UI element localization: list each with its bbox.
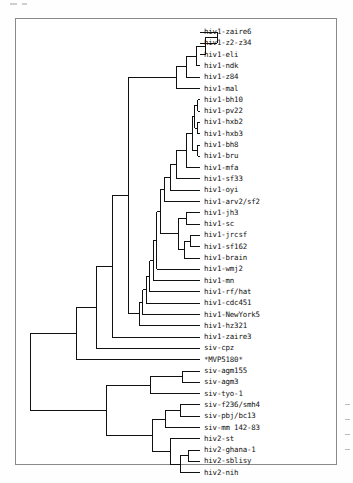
tree-tip-label: hiv1-z84: [204, 72, 239, 81]
tree-tip-label: hiv1-mfa: [204, 163, 238, 172]
tree-tip-label: siv-agm155: [204, 366, 247, 375]
phylogenetic-tree: hiv1-zaire6hiv1-z2-z34hiv1-elihiv1-ndkhi…: [0, 0, 353, 483]
tree-tip-label: hiv1-hz321: [204, 321, 247, 330]
tree-tip-label: hiv1-zaire6: [204, 27, 251, 36]
tree-tip-label: hiv2-ghana-1: [204, 445, 256, 454]
tree-tip-label: hiv1-jh3: [204, 208, 238, 217]
tree-tip-label: siv-tyo-1: [204, 389, 243, 398]
tree-svg: hiv1-zaire6hiv1-z2-z34hiv1-elihiv1-ndkhi…: [0, 0, 353, 483]
tree-tip-label: hiv1-rf/hat: [204, 287, 251, 296]
tree-tip-label: hiv1-mal: [204, 84, 238, 93]
tree-tip-label: hiv1-hxb2: [204, 117, 243, 126]
tree-tip-label: hiv1-wmj2: [204, 264, 243, 273]
tree-tip-label: *MVP5180*: [204, 355, 243, 364]
tree-tip-label: hiv1-bh10: [204, 95, 243, 104]
tree-tip-labels: hiv1-zaire6hiv1-z2-z34hiv1-elihiv1-ndkhi…: [204, 27, 261, 477]
tree-tip-label: hiv1-ndk: [204, 61, 239, 70]
tree-tip-label: siv-f236/smh4: [204, 400, 261, 409]
tree-tip-label: hiv1-bru: [204, 151, 238, 160]
tree-tip-label: hiv1-hxb3: [204, 129, 243, 138]
tree-tip-label: hiv1-eli: [204, 50, 238, 59]
tree-tip-label: hiv1-bh8: [204, 140, 238, 149]
tree-tip-label: hiv1-brain: [204, 253, 247, 262]
tree-tip-label: hiv1-pv22: [204, 106, 243, 115]
tree-tip-label: hiv1-z2-z34: [204, 38, 252, 47]
tree-tip-label: hiv1-cdc451: [204, 298, 251, 307]
tree-tip-label: hiv1-sf33: [204, 174, 243, 183]
tree-tip-label: hiv1-NewYork5: [204, 310, 260, 319]
tree-tip-label: hiv2-st: [204, 434, 234, 443]
page-canvas: hiv1-zaire6hiv1-z2-z34hiv1-elihiv1-ndkhi…: [0, 0, 353, 483]
tree-tip-label: hiv1-zaire3: [204, 332, 251, 341]
tree-tip-label: hiv1-arv2/sf2: [204, 197, 260, 206]
tree-tip-label: hiv2-sblisy: [204, 456, 252, 465]
tree-tip-label: siv-cpz: [204, 343, 234, 352]
tree-tip-label: siv-mm 142-83: [204, 423, 260, 432]
tree-tip-label: siv-agm3: [204, 377, 238, 386]
tree-edges: [30, 32, 217, 473]
tree-tip-label: hiv1-mn: [204, 276, 234, 285]
tree-tip-label: hiv1-sf162: [204, 242, 247, 251]
tree-tip-label: hiv1-sc: [204, 219, 234, 228]
tree-tip-label: hiv1-jrcsf: [204, 230, 247, 239]
tree-tip-label: siv-pbj/bc13: [204, 411, 256, 420]
tree-tip-label: hiv1-oyi: [204, 185, 238, 194]
tree-tip-label: hiv2-nih: [204, 468, 238, 477]
